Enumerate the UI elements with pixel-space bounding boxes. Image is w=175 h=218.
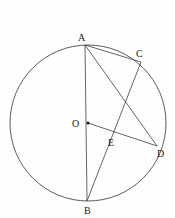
segments-group [85, 45, 157, 201]
point-dots-group [86, 121, 89, 124]
segment-OD [88, 123, 157, 146]
geometry-figure: ABCDEO [0, 0, 175, 218]
point-dot-O [86, 121, 89, 124]
point-label-B: B [84, 205, 91, 216]
point-label-D: D [157, 148, 164, 159]
segment-AD [85, 45, 157, 146]
point-label-A: A [78, 32, 86, 43]
figure-root: り、 る のこ 点 とい 交わ のと り、 ABCDEO [0, 0, 175, 218]
point-label-O: O [72, 118, 79, 129]
point-label-C: C [136, 48, 143, 59]
point-label-E: E [108, 137, 114, 148]
